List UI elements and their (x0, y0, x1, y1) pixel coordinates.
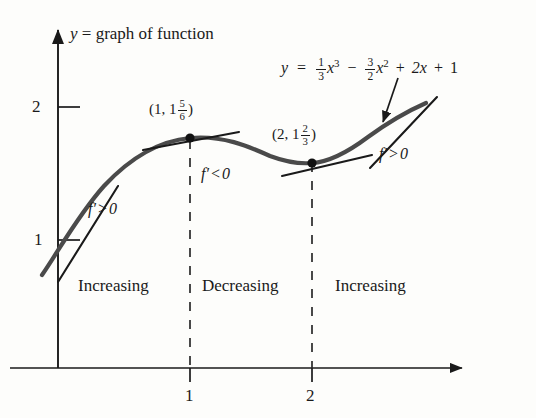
equation-equals: = (292, 59, 311, 76)
calculus-increasing-decreasing-figure: y = graph of function y = 1 3 x3 − 3 2 x… (0, 0, 536, 418)
equation-term4: 1 (450, 59, 458, 76)
point-max-y-whole: 1 (169, 101, 177, 117)
equation-term3: 2x (412, 59, 427, 76)
derivative-middle-value: 0 (222, 165, 230, 182)
y-axis-title-variable: y (70, 24, 78, 43)
region-label-increasing-left: Increasing (78, 277, 149, 294)
point-min-y-numerator: 2 (301, 123, 310, 135)
derivative-right-symbol: f′ (379, 145, 387, 162)
point-min-y-whole: 1 (292, 126, 300, 142)
equation-term2-numerator: 3 (365, 56, 375, 69)
point-max-comma: , (162, 101, 166, 117)
point-min-y-denominator: 3 (301, 136, 310, 147)
derivative-label-middle: f′<0 (201, 166, 230, 182)
point-max-y-denominator: 6 (178, 111, 187, 122)
equation-term1-fraction: 1 3 (316, 56, 326, 81)
equation-plus-2: + (431, 59, 446, 76)
point-min-x: 2 (277, 126, 285, 142)
equation-term2-exponent: 2 (383, 57, 388, 69)
point-min-y: 123 (292, 124, 311, 148)
derivative-label-left: f′>0 (88, 201, 117, 217)
equation-term1-denominator: 3 (316, 70, 326, 82)
derivative-label-right: f′>0 (379, 146, 408, 162)
equation-term1-exponent: 3 (334, 57, 339, 69)
derivative-middle-operator: < (209, 165, 222, 182)
point-max-x: 1 (154, 101, 162, 117)
equation-lhs: y (281, 59, 288, 76)
point-min-y-fraction: 23 (301, 123, 310, 147)
point-marker-local-maximum (185, 133, 194, 142)
derivative-right-operator: > (387, 145, 400, 162)
function-equation: y = 1 3 x3 − 3 2 x2 + 2x + 1 (281, 57, 458, 82)
derivative-left-value: 0 (109, 200, 117, 217)
region-label-increasing-right: Increasing (335, 277, 406, 294)
derivative-middle-symbol: f′ (201, 165, 209, 182)
equation-term2-fraction: 3 2 (365, 56, 375, 81)
equation-term1-variable: x (327, 59, 334, 76)
equation-plus-1: + (393, 59, 408, 76)
function-curve (42, 103, 426, 275)
point-marker-local-minimum (307, 158, 316, 167)
point-max-close-paren: ) (188, 101, 193, 117)
derivative-left-symbol: f′ (88, 200, 96, 217)
x-tick-label-1: 1 (185, 387, 194, 404)
y-tick-label-2: 2 (32, 98, 41, 115)
derivative-right-value: 0 (400, 145, 408, 162)
y-tick-label-1: 1 (34, 231, 43, 248)
equation-leader-arrow (383, 78, 398, 122)
derivative-left-operator: > (96, 200, 109, 217)
y-axis-title-text: = graph of function (82, 24, 214, 43)
point-max-y-numerator: 5 (178, 98, 187, 110)
point-label-local-minimum: (2, 123) (272, 124, 316, 148)
equation-term2-denominator: 2 (365, 70, 375, 82)
point-max-y-fraction: 56 (178, 98, 187, 122)
point-label-local-maximum: (1, 156) (149, 99, 193, 123)
x-tick-label-2: 2 (306, 387, 315, 404)
equation-minus: − (343, 59, 360, 76)
equation-term1-numerator: 1 (316, 56, 326, 69)
y-axis-title: y = graph of function (70, 25, 214, 42)
region-label-decreasing: Decreasing (202, 277, 278, 294)
point-min-comma: , (285, 126, 289, 142)
point-max-y: 156 (169, 99, 188, 123)
point-min-close-paren: ) (311, 126, 316, 142)
